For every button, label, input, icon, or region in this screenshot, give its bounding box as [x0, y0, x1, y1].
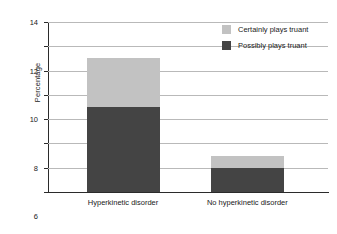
y-tick-mark: 6	[44, 119, 48, 120]
legend-item: Certainly plays truant	[222, 23, 308, 36]
y-tick-mark: 0	[44, 192, 48, 193]
y-tick-mark: 10	[44, 71, 48, 72]
x-axis-line	[48, 192, 329, 193]
chart-legend: Certainly plays truantPossibly plays tru…	[222, 23, 308, 55]
y-tick-label: 12	[30, 66, 38, 75]
x-axis-category-label: No hyperkinetic disorder	[157, 198, 337, 207]
y-tick-mark: 12	[44, 46, 48, 47]
y-axis-title: Percentage	[33, 48, 42, 118]
y-tick-mark: 2	[44, 168, 48, 169]
y-tick-mark: 8	[44, 95, 48, 96]
legend-label: Certainly plays truant	[238, 25, 308, 34]
y-tick-label: 14	[30, 18, 38, 27]
y-tick-mark: 4	[44, 143, 48, 144]
legend-swatch	[222, 25, 231, 34]
y-tick-label: 6	[34, 212, 38, 221]
y-tick-mark: 14	[44, 22, 48, 23]
y-tick-label: 8	[34, 163, 38, 172]
bar-segment	[87, 107, 160, 192]
legend-item: Possibly plays truant	[222, 39, 308, 52]
legend-swatch	[222, 41, 231, 50]
bar-group	[87, 22, 160, 192]
bar-segment	[211, 168, 284, 192]
y-tick-label: 10	[30, 115, 38, 124]
legend-label: Possibly plays truant	[238, 41, 307, 50]
bar-segment	[211, 156, 284, 168]
stacked-bar-chart: Percentage 02468101214 Certainly plays t…	[0, 0, 337, 234]
bar-segment	[87, 58, 160, 107]
